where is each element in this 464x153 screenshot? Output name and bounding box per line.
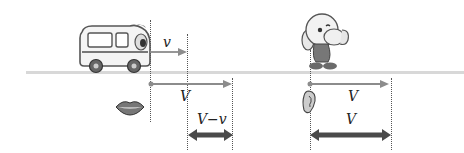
relative-speed-label-listener: V xyxy=(346,111,356,127)
ear-icon xyxy=(301,90,317,114)
cartoon-person-cupping-ear-icon xyxy=(298,8,352,72)
relative-speed-arrow-listener xyxy=(310,129,392,141)
wave-speed-label-source: V xyxy=(180,88,190,104)
relative-speed-label-source: V−v xyxy=(197,111,227,127)
wave-speed-arrow-source xyxy=(147,79,237,89)
wave-speed-label-listener: V xyxy=(348,88,358,104)
mouth-icon xyxy=(115,98,145,116)
source-speed-label: v xyxy=(163,34,171,50)
bus-icon xyxy=(78,22,154,74)
bus-front-dotted-line xyxy=(150,20,151,122)
relative-speed-arrow-source xyxy=(188,129,234,141)
